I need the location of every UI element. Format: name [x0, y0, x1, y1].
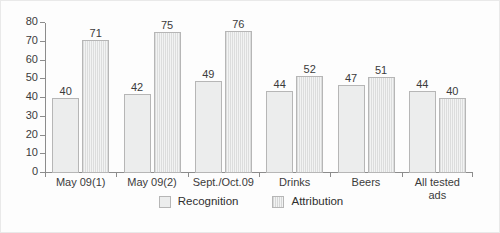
bar-group: 4440: [409, 23, 466, 173]
y-axis-tick-label: 80: [26, 15, 38, 28]
bar-attribution: 76: [225, 31, 252, 174]
bar-recognition: 42: [124, 94, 151, 173]
bar-value-label: 40: [60, 85, 72, 97]
bar-value-label: 47: [345, 72, 357, 84]
bar-attribution: 52: [296, 76, 323, 174]
bar-value-label: 76: [232, 18, 244, 30]
bar-value-label: 44: [416, 78, 428, 90]
bar-recognition: 40: [52, 98, 79, 173]
bar-recognition: 44: [266, 91, 293, 174]
bar-value-label: 52: [304, 63, 316, 75]
legend-label: Recognition: [178, 195, 239, 208]
legend-swatch-icon: [159, 196, 171, 208]
plot-area: 01020304050607080 4071427549764452475144…: [45, 23, 473, 173]
bar-group: 4275: [124, 23, 181, 173]
bar-value-label: 75: [161, 19, 173, 31]
y-axis-tick-label: 60: [26, 53, 38, 66]
bar-value-label: 49: [202, 68, 214, 80]
bar-value-label: 40: [446, 85, 458, 97]
legend-label: Attribution: [291, 195, 343, 208]
y-axis-tick-label: 40: [26, 90, 38, 103]
bar-attribution: 51: [368, 77, 395, 173]
y-axis-tick-label: 0: [32, 165, 38, 178]
y-axis-tick-label: 20: [26, 128, 38, 141]
bar-value-label: 42: [131, 81, 143, 93]
bar-value-label: 51: [375, 64, 387, 76]
bar-attribution: 40: [439, 98, 466, 173]
x-axis-tick-label: May 09(2): [116, 176, 187, 189]
chart-screenshot: 01020304050607080 4071427549764452475144…: [0, 0, 500, 233]
bar-recognition: 47: [338, 85, 365, 173]
y-axis-tick-label: 30: [26, 109, 38, 122]
x-axis-tick-label: Drinks: [259, 176, 330, 189]
y-axis-tick-label: 70: [26, 34, 38, 47]
y-axis-tick-label: 10: [26, 146, 38, 159]
bar-value-label: 44: [274, 78, 286, 90]
legend-item-recognition[interactable]: Recognition: [159, 195, 239, 208]
bar-group: 4751: [338, 23, 395, 173]
bar-group: 4071: [52, 23, 109, 173]
bar-attribution: 75: [154, 32, 181, 173]
bar-groups: 407142754976445247514440: [45, 23, 473, 173]
bar-group: 4452: [266, 23, 323, 173]
legend-swatch-icon: [272, 196, 284, 208]
chart-legend: RecognitionAttribution: [1, 195, 500, 208]
bar-attribution: 71: [82, 40, 109, 173]
legend-item-attribution[interactable]: Attribution: [272, 195, 343, 208]
bar-group: 4976: [195, 23, 252, 173]
bar-value-label: 71: [90, 27, 102, 39]
x-axis-tick-label: Sept./Oct.09: [188, 176, 259, 189]
x-axis-tick-label: Beers: [330, 176, 401, 189]
bar-recognition: 49: [195, 81, 222, 173]
y-axis-tick-label: 50: [26, 71, 38, 84]
bar-recognition: 44: [409, 91, 436, 174]
x-axis-tick-label: May 09(1): [45, 176, 116, 189]
